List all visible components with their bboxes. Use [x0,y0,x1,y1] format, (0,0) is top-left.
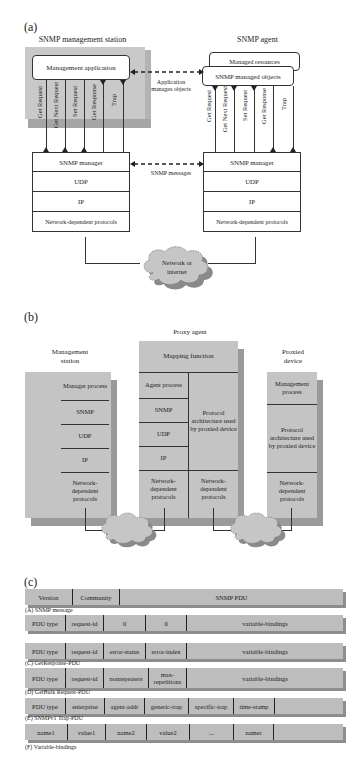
field-request-id: request-id [66,668,104,688]
divider [267,472,317,473]
proxy-agent-block: Mapping function Agent process SNMP UDP … [139,341,238,518]
management-application-box: Management application [32,55,130,80]
left-udp: UDP [32,172,130,192]
field-error-status: error-status [104,643,146,659]
snmp-managed-objects-box: SNMP managed objects [202,66,294,86]
divider [61,424,109,425]
field-pdu-type: PDU type [25,643,66,659]
field-community: Community [73,589,120,605]
proxy-snmp: SNMP [139,400,188,420]
variable-bindings-row: name1 value1 name2 value2 ... namer [25,724,343,740]
application-link-label: Application manages objects [146,79,196,93]
field-agent-addr: agent-addr [105,698,145,714]
caption-d: (D) GetBulk Request-PDU [25,689,90,695]
left-ip: IP [32,192,130,212]
b-line-3 [213,508,214,531]
left-network-hline [85,263,140,264]
proxy-protocol-architecture: Protocol architecture used by proxied de… [189,381,238,461]
proxied-protocol-architecture: Protocol architecture used by proxied de… [267,406,317,470]
divider [61,400,109,401]
divider [139,398,188,399]
field-error-index: error-index [146,643,187,659]
management-station-title-b: Management station [30,348,110,366]
proxied-device-block: Management process Protocol architecture… [267,372,317,518]
panel-c-label: (c) [24,575,37,590]
management-application-label: Management application [46,64,115,72]
field-version: Version [25,589,73,605]
divider [61,448,109,449]
field-value2: value2 [147,724,190,740]
b-line-1 [85,508,86,531]
application-link-arrow [130,66,204,78]
left-operation-arrows [32,80,130,152]
snmp-managed-objects-label: SNMP managed objects [215,73,280,80]
field-snmp-pdu: SNMP PDU [120,589,343,605]
management-station-title: SNMP management station [25,35,140,44]
cloud-label: Network or internet [152,258,202,276]
proxy-network-protocols-right: Network- dependent protocols [189,472,238,506]
field-namer: namer [234,724,274,740]
panel-a-label: (a) [24,20,37,35]
field-empty [275,698,343,714]
field-variable-bindings: variable-bindings [187,643,343,659]
divider [139,470,238,471]
cloud-label-line1: Network or [152,258,202,267]
field-specific-trap: specific-trap [189,698,234,714]
proxied-title-line1: Proxied [268,348,318,357]
caption-f: (F) Variable-bindings [25,744,76,750]
right-ip: IP [203,192,301,212]
field-time-stamp: time-stamp [234,698,275,714]
snmp-agent-title: SNMP agent [200,35,315,44]
mgmt-network-protocols: Network- dependent protocols [60,474,110,508]
mgmt-snmp: SNMP [60,402,110,422]
right-protocol-stack: SNMP manager UDP IP Network-dependent pr… [203,152,301,232]
snmp-messages-arrow [130,158,204,170]
divider [139,422,188,423]
b-line-4 [291,508,292,531]
agent-shadow-base [199,234,321,243]
b-line-2 [164,508,165,531]
snmp-messages-label: SNMP messages [142,170,200,176]
field-value1: value1 [68,724,106,740]
divider [139,446,188,447]
trap-pdu-row: PDU type enterprise agent-addr generic-t… [25,698,343,714]
proxied-device-title: Proxied device [268,348,318,366]
mgmt-ip: IP [60,450,110,470]
manager-process: Manager process [60,374,110,398]
panel-b-label: (b) [24,310,38,325]
caption-a: (A) SNMP message [25,607,73,613]
snmp-message-row: Version Community SNMP PDU [25,589,343,605]
left-network-protocols: Network-dependent protocols [32,212,130,232]
left-network-line [85,237,86,264]
right-snmp-manager: SNMP manager [203,152,301,172]
caption-e: (E) SNMPv1 Trap-PDU [25,715,83,721]
field-name2: name2 [106,724,147,740]
field-nonrepeaters: nonrepeaters [104,668,149,688]
agent-process: Agent process [139,374,188,396]
app-link-label-line1: Application [146,79,196,86]
field-pdu-type: PDU type [25,668,66,688]
cloud-icon-right [225,510,289,552]
right-udp: UDP [203,172,301,192]
field-request-id: request-id [66,643,104,659]
field-generic-trap: generic-trap [145,698,189,714]
proxy-network-protocols-left: Network- dependent protocols [139,472,188,506]
management-station-b-block: Manager process SNMP UDP IP Network- dep… [25,372,111,518]
left-snmp-manager: SNMP manager [32,152,130,172]
mgmt-title-line2: station [30,357,110,366]
divider [61,472,109,473]
field-zero-1: 0 [104,615,146,631]
left-shadow-base [28,234,151,243]
get-response-pdu-row: PDU type request-id error-status error-i… [25,643,343,659]
mgmt-udp: UDP [60,426,110,446]
app-link-label-line2: manages objects [146,86,196,93]
field-request-id: request-id [66,615,104,631]
field-empty [274,724,343,740]
managed-resources-label: Managed resources [229,58,279,65]
cloud-label-line2: internet [152,267,202,276]
field-ellipsis: ... [190,724,234,740]
mapping-function: Mapping function [139,345,238,367]
field-pdu-type: PDU type [25,615,66,631]
proxied-title-line2: device [268,357,318,366]
proxy-udp: UDP [139,424,188,444]
